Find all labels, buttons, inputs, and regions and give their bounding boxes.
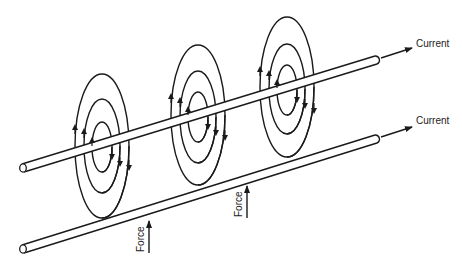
diagram-canvas: Current Current Force Force	[0, 0, 462, 267]
current-arrow-lower	[381, 127, 412, 137]
magnetic-field-diagram: Current Current Force Force	[0, 0, 462, 267]
current-arrow-upper	[381, 48, 412, 58]
wire-end-cap-lower	[20, 245, 27, 253]
force-label-right: Force	[233, 191, 244, 217]
force-label-left: Force	[135, 226, 146, 252]
wire-end-cap-upper	[20, 164, 27, 172]
current-label-upper: Current	[416, 38, 450, 49]
current-label-lower: Current	[416, 115, 450, 126]
